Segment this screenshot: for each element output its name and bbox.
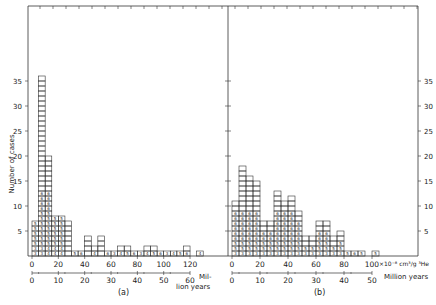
svg-text:6: 6 (248, 216, 251, 221)
svg-text:3: 3 (34, 246, 37, 251)
svg-text:5: 5 (339, 246, 342, 251)
svg-text:5: 5 (325, 241, 328, 246)
svg-text:6: 6 (41, 206, 44, 211)
svg-text:5: 5 (241, 241, 244, 246)
svg-text:4: 4 (172, 251, 175, 256)
svg-text:6: 6 (241, 226, 244, 231)
svg-text:5: 5 (60, 241, 63, 246)
svg-text:5: 5 (255, 241, 258, 246)
svg-text:3: 3 (113, 251, 116, 256)
svg-text:4: 4 (54, 251, 57, 256)
svg-text:5: 5 (54, 236, 57, 241)
svg-text:6: 6 (269, 236, 272, 241)
svg-text:3: 3 (269, 251, 272, 256)
svg-text:20: 20 (424, 153, 433, 161)
svg-text:6: 6 (248, 236, 251, 241)
svg-text:6: 6 (255, 231, 258, 236)
svg-text:5: 5 (60, 226, 63, 231)
svg-text:5: 5 (262, 241, 265, 246)
svg-text:6: 6 (269, 231, 272, 236)
svg-text:5: 5 (47, 236, 50, 241)
svg-text:6: 6 (325, 236, 328, 241)
svg-text:5: 5 (283, 241, 286, 246)
svg-text:6: 6 (283, 231, 286, 236)
svg-text:6: 6 (41, 201, 44, 206)
svg-text:5: 5 (297, 241, 300, 246)
svg-text:6: 6 (262, 236, 265, 241)
svg-text:35: 35 (13, 78, 22, 86)
svg-text:35: 35 (424, 78, 433, 86)
svg-text:6: 6 (255, 226, 258, 231)
svg-text:40: 40 (133, 276, 143, 285)
svg-text:6: 6 (47, 196, 50, 201)
svg-text:4: 4 (199, 251, 202, 256)
svg-text:6: 6 (290, 231, 293, 236)
svg-text:6: 6 (297, 236, 300, 241)
svg-text:5: 5 (269, 241, 272, 246)
svg-text:3: 3 (41, 246, 44, 251)
svg-text:3: 3 (139, 251, 142, 256)
svg-text:6: 6 (133, 251, 136, 256)
svg-text:6: 6 (276, 231, 279, 236)
svg-text:5: 5 (54, 231, 57, 236)
svg-text:20: 20 (54, 260, 64, 269)
svg-text:5: 5 (269, 246, 272, 251)
svg-text:5: 5 (241, 246, 244, 251)
svg-text:5: 5 (248, 246, 251, 251)
svg-text:3: 3 (34, 251, 37, 256)
svg-text:5: 5 (60, 231, 63, 236)
svg-text:4: 4 (146, 251, 149, 256)
svg-text:6: 6 (159, 251, 162, 256)
svg-text:5: 5 (34, 226, 37, 231)
svg-text:5: 5 (276, 241, 279, 246)
svg-text:3: 3 (234, 251, 237, 256)
svg-text:5: 5 (34, 221, 37, 226)
svg-text:5: 5 (424, 228, 428, 236)
svg-text:5: 5 (318, 246, 321, 251)
b-unit-secondary: Million years (384, 273, 428, 281)
svg-text:0: 0 (230, 276, 235, 285)
svg-text:5: 5 (54, 216, 57, 221)
svg-text:6: 6 (276, 216, 279, 221)
svg-text:5: 5 (290, 241, 293, 246)
svg-text:6: 6 (283, 226, 286, 231)
svg-text:0: 0 (30, 260, 35, 269)
svg-text:6: 6 (241, 211, 244, 216)
svg-text:6: 6 (276, 236, 279, 241)
svg-text:5: 5 (60, 221, 63, 226)
svg-text:6: 6 (262, 231, 265, 236)
svg-text:5: 5 (325, 246, 328, 251)
svg-text:5: 5 (374, 251, 377, 256)
svg-text:6: 6 (234, 221, 237, 226)
svg-text:30: 30 (106, 276, 116, 285)
svg-text:10: 10 (13, 203, 22, 211)
svg-text:5: 5 (290, 246, 293, 251)
svg-text:5: 5 (255, 246, 258, 251)
svg-text:6: 6 (248, 211, 251, 216)
a-unit-line1: Mil- (199, 273, 211, 281)
svg-text:6: 6 (255, 211, 258, 216)
svg-text:4: 4 (47, 246, 50, 251)
svg-text:60: 60 (106, 260, 116, 269)
svg-text:4: 4 (93, 251, 96, 256)
svg-text:6: 6 (234, 216, 237, 221)
svg-text:5: 5 (18, 228, 22, 236)
svg-text:3: 3 (325, 251, 328, 256)
svg-text:3: 3 (241, 251, 244, 256)
svg-text:6: 6 (255, 236, 258, 241)
svg-text:6: 6 (297, 231, 300, 236)
svg-text:5: 5 (54, 226, 57, 231)
svg-text:6: 6 (283, 221, 286, 226)
svg-text:40: 40 (283, 260, 293, 269)
svg-text:5: 5 (283, 246, 286, 251)
svg-text:30: 30 (311, 276, 321, 285)
svg-text:6: 6 (318, 231, 321, 236)
svg-text:60: 60 (311, 260, 321, 269)
svg-text:6: 6 (80, 251, 83, 256)
svg-text:5: 5 (34, 241, 37, 246)
svg-text:6: 6 (283, 236, 286, 241)
svg-text:6: 6 (290, 211, 293, 216)
svg-text:6: 6 (353, 251, 356, 256)
svg-text:6: 6 (47, 201, 50, 206)
svg-text:6: 6 (290, 236, 293, 241)
